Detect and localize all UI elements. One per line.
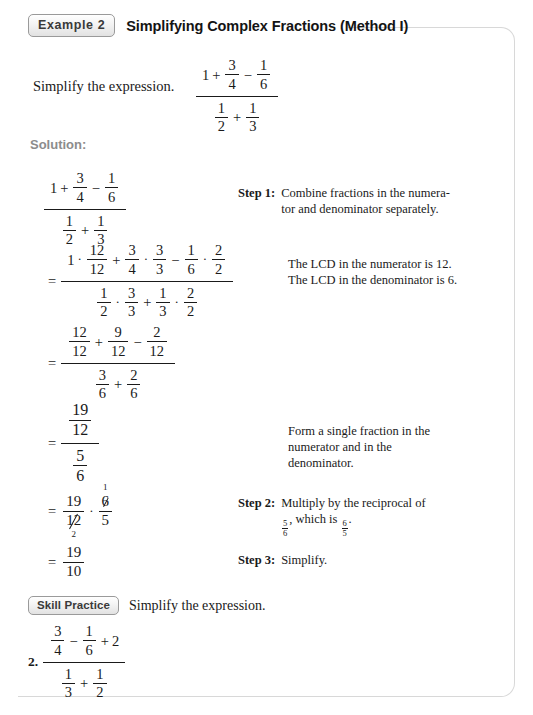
- fraction: 3 3: [125, 286, 138, 320]
- solution-line-1: 1 + 3 4 − 1 6: [44, 171, 126, 247]
- solution-line-3: = 12 12 + 9 12 − 2: [48, 325, 175, 401]
- main-num-whole: 1: [202, 68, 209, 83]
- example-header: Example 2 Simplifying Complex Fractions …: [28, 14, 408, 37]
- example-title: Simplifying Complex Fractions (Method I): [126, 18, 408, 34]
- main-fraction-bar: [61, 443, 99, 444]
- step-2-body: Multiply by the reciprocal of 5 6 , whic…: [281, 496, 488, 538]
- fraction: 1 6: [83, 624, 96, 658]
- example-badge: Example 2: [28, 14, 115, 37]
- main-fraction-bar: [61, 363, 175, 364]
- step-2-label: Step 2:: [238, 496, 275, 512]
- main-den-op: +: [233, 110, 241, 125]
- main-fraction-bar: [61, 281, 233, 282]
- multiplication-dot: ·: [116, 295, 120, 308]
- multiplication-dot: ·: [77, 252, 81, 265]
- fraction: 1 6: [185, 243, 198, 277]
- practice-problem-number: 2.: [28, 654, 38, 670]
- fraction-with-cancel-denominator: 19 12 2: [63, 494, 84, 529]
- cancel-replacement-1: 1: [103, 483, 108, 492]
- main-expression: 1 + 3 4 − 1 6 1 2: [196, 58, 278, 134]
- step-1-body: Combine fractions in the numera- tor and…: [281, 186, 488, 218]
- fraction: 1 2: [93, 667, 106, 701]
- fraction: 5 6: [73, 448, 87, 485]
- step-3-body: Simplify.: [281, 553, 488, 569]
- fraction: 1 6: [105, 171, 118, 205]
- solution-label: Solution:: [30, 137, 86, 152]
- equals-sign: =: [48, 554, 56, 571]
- cancel-mark-6: 6: [102, 494, 110, 509]
- main-den-frac2: 1 3: [246, 101, 259, 135]
- main-fraction-bar: [44, 209, 126, 210]
- solution-line-4: = 19 12 5 6: [48, 402, 99, 484]
- prompt-text: Simplify the expression.: [33, 78, 174, 95]
- skill-practice-instruction: Simplify the expression.: [129, 598, 266, 614]
- solution-line-2: = 1 · 12 12 + 3 4 ·: [48, 243, 233, 319]
- fraction: 2 2: [184, 286, 197, 320]
- equals-sign: =: [48, 435, 56, 452]
- main-num-op1: +: [212, 68, 220, 83]
- solution-line-6: = 19 10: [48, 545, 86, 580]
- practice-problem-2: 2. 3 4 − 1 6 + 2: [28, 624, 125, 700]
- fraction: 3 4: [51, 624, 64, 658]
- fraction: 12 12: [69, 325, 90, 359]
- skill-practice-header: Skill Practice Simplify the expression.: [28, 596, 266, 615]
- inline-fraction-6-5: 6 5: [342, 519, 348, 538]
- skill-practice-badge: Skill Practice: [28, 596, 119, 615]
- inline-fraction-5-6: 5 6: [282, 519, 288, 538]
- equals-sign: =: [48, 355, 56, 372]
- main-num-frac1: 3 4: [225, 58, 238, 92]
- main-fraction-bar: [196, 96, 278, 97]
- fraction: 3 4: [125, 243, 138, 277]
- main-num-frac2: 1 6: [257, 58, 270, 92]
- main-den-frac1: 1 2: [215, 101, 228, 135]
- cancel-mark-12: 12: [66, 513, 81, 528]
- multiplication-dot: ·: [89, 504, 93, 517]
- fraction: 3 6: [96, 368, 109, 402]
- fraction: 1 3: [156, 286, 169, 320]
- fraction: 1 3: [62, 667, 75, 701]
- fraction: 2 2: [212, 243, 225, 277]
- annotation-step-1: Step 1: Combine fractions in the numera-…: [238, 186, 488, 218]
- main-num-op2: −: [244, 68, 252, 83]
- fraction: 19 12: [69, 402, 91, 439]
- equals-sign: =: [48, 273, 56, 290]
- step-1-label: Step 1:: [238, 186, 275, 202]
- fraction: 1 2: [97, 286, 110, 320]
- step-3-label: Step 3:: [238, 553, 275, 569]
- annotation-step-2: Step 2: Multiply by the reciprocal of 5 …: [238, 496, 488, 538]
- multiplication-dot: ·: [144, 252, 148, 265]
- fraction-with-cancel-numerator: 6 1 5: [99, 494, 113, 529]
- fraction: 12 12: [87, 243, 108, 277]
- fraction: 3 4: [73, 171, 86, 205]
- annotation-single-fraction: Form a single fraction in the numerator …: [288, 424, 508, 471]
- multiplication-dot: ·: [175, 295, 179, 308]
- fraction: 3 3: [153, 243, 166, 277]
- fraction: 2 12: [147, 325, 168, 359]
- fraction: 2 6: [127, 368, 140, 402]
- main-fraction-bar: [43, 662, 125, 663]
- cancel-replacement-2: 2: [71, 530, 76, 539]
- annotation-step-3: Step 3: Simplify.: [238, 553, 488, 569]
- final-result-fraction: 19 10: [63, 545, 84, 580]
- annotation-lcd: The LCD in the numerator is 12. The LCD …: [288, 257, 518, 289]
- equals-sign: =: [48, 503, 56, 520]
- fraction: 9 12: [108, 325, 129, 359]
- solution-line-5: = 19 12 2 · 6 1 5: [48, 494, 114, 529]
- multiplication-dot: ·: [203, 252, 207, 265]
